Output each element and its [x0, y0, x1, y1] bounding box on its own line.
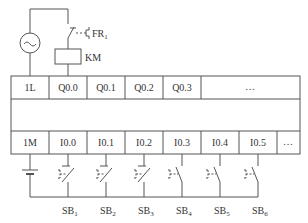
switch-sb1-icon — [58, 154, 74, 197]
switch-label-sb5: SB5 — [214, 205, 230, 218]
switch-label-sb3: SB3 — [138, 205, 154, 218]
terminal-i0-0: I0.0 — [60, 137, 76, 148]
switch-sb4-icon — [168, 154, 182, 197]
fr-label: FR1 — [92, 28, 108, 41]
input-circuit — [22, 154, 258, 197]
terminal-i0-3: I0.3 — [174, 137, 190, 148]
switch-label-sb1: SB1 — [62, 205, 78, 218]
ac-source-icon — [20, 33, 40, 53]
terminal-i0-2: I0.2 — [136, 137, 152, 148]
terminal-more-inputs: … — [283, 136, 293, 147]
thermal-relay-contact-icon — [68, 27, 89, 39]
terminal-q0-0: Q0.0 — [58, 82, 78, 93]
terminal-1l: 1L — [24, 82, 35, 93]
switch-label-sb4: SB4 — [176, 205, 192, 218]
terminal-1m: 1M — [23, 137, 37, 148]
diagram-canvas: FR1 KM 1L Q0.0 Q0.1 Q0.2 Q0.3 … 1M I0.0 … — [0, 0, 308, 223]
ac-wave-icon — [24, 42, 36, 46]
plc-wiring-diagram: FR1 KM 1L Q0.0 Q0.1 Q0.2 Q0.3 … 1M I0.0 … — [0, 0, 308, 223]
terminal-more-outputs: … — [245, 81, 255, 92]
terminal-i0-4: I0.4 — [212, 137, 228, 148]
switch-sb6-icon — [244, 154, 258, 197]
km-label: KM — [85, 52, 101, 63]
output-wire — [30, 9, 68, 76]
terminal-q0-3: Q0.3 — [172, 82, 192, 93]
switch-sb3-icon — [134, 154, 150, 197]
terminal-i0-1: I0.1 — [98, 137, 114, 148]
switch-label-sb6: SB6 — [252, 205, 268, 218]
terminal-q0-1: Q0.1 — [96, 82, 116, 93]
switch-label-sb2: SB2 — [100, 205, 116, 218]
km-coil-icon — [55, 49, 81, 64]
switch-sb5-icon — [206, 154, 220, 197]
switch-sb2-icon — [96, 154, 112, 197]
terminal-q0-2: Q0.2 — [134, 82, 154, 93]
terminal-i0-5: I0.5 — [250, 137, 266, 148]
output-circuit — [20, 9, 89, 76]
